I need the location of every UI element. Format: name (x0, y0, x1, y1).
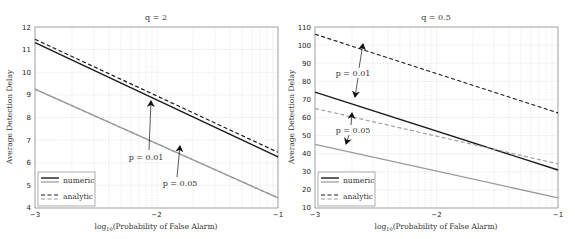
left-x-ticks: −3 −2 −1 (30, 211, 283, 219)
svg-text:11: 11 (22, 46, 31, 54)
right-legend: numeric analytic (318, 172, 375, 206)
svg-text:12: 12 (22, 24, 31, 32)
left-legend: numeric analytic (38, 172, 95, 206)
left-plot: q = 2 4 5 6 7 8 9 10 11 12 (5, 13, 283, 232)
svg-text:−3: −3 (30, 211, 40, 219)
right-annotation-p001: p = 0.01 (336, 69, 371, 78)
svg-text:60: 60 (302, 114, 311, 122)
left-annotation-p005: p = 0.05 (163, 179, 198, 188)
svg-text:7: 7 (27, 137, 31, 145)
svg-text:90: 90 (302, 60, 311, 68)
svg-text:30: 30 (302, 168, 311, 176)
svg-text:110: 110 (298, 24, 311, 32)
right-x-label: log10(Probability of False Alarm) (375, 222, 498, 232)
svg-text:−2: −2 (431, 211, 441, 219)
svg-text:70: 70 (302, 96, 311, 104)
left-analytic-p001-line (35, 39, 278, 152)
left-annotation-p001: p = 0.01 (129, 153, 164, 162)
svg-text:−1: −1 (273, 211, 283, 219)
svg-text:100: 100 (298, 42, 311, 50)
svg-text:50: 50 (302, 132, 311, 140)
svg-text:10: 10 (22, 69, 31, 77)
svg-text:40: 40 (302, 150, 311, 158)
svg-text:9: 9 (27, 91, 31, 99)
left-y-label: Average Detection Delay (5, 69, 14, 165)
svg-text:−3: −3 (310, 211, 320, 219)
right-legend-analytic: analytic (343, 192, 373, 201)
svg-text:80: 80 (302, 78, 311, 86)
svg-text:20: 20 (302, 186, 311, 194)
left-y-ticks: 4 5 6 7 8 9 10 11 12 (22, 24, 31, 213)
right-legend-numeric: numeric (343, 176, 374, 185)
svg-text:−2: −2 (151, 211, 161, 219)
svg-text:6: 6 (27, 159, 32, 167)
right-annotation-p005: p = 0.05 (336, 126, 371, 135)
left-plot-title: q = 2 (145, 13, 167, 22)
right-annotations: p = 0.01 p = 0.05 (336, 44, 371, 144)
right-y-ticks: 10 20 30 40 50 60 70 80 90 100 110 (298, 24, 311, 213)
svg-text:5: 5 (27, 182, 31, 190)
svg-text:−1: −1 (553, 211, 563, 219)
left-legend-analytic: analytic (63, 192, 93, 201)
figure: q = 2 4 5 6 7 8 9 10 11 12 (0, 0, 575, 239)
svg-text:8: 8 (27, 114, 31, 122)
left-numeric-p001-line (35, 43, 278, 157)
right-x-ticks: −3 −2 −1 (310, 211, 563, 219)
left-legend-numeric: numeric (63, 176, 94, 185)
left-x-label: log10(Probability of False Alarm) (95, 222, 218, 232)
right-y-label: Average Detection Delay (287, 69, 296, 165)
right-plot-title: q = 0.5 (421, 13, 451, 22)
right-plot: q = 0.5 10 20 30 40 50 60 70 80 90 100 1… (287, 13, 563, 232)
